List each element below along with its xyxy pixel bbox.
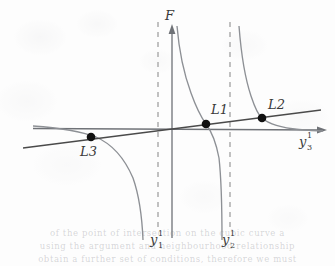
asymptote-label-y1-subscript: 1 bbox=[158, 241, 163, 250]
point-label-L2: L2 bbox=[267, 97, 285, 112]
plot-canvas: L1 L2 L3 F y 1 3 y 1 1 y 1 2 bbox=[0, 0, 335, 266]
axis-label-F: F bbox=[164, 8, 175, 23]
axis-label-y3-base: y bbox=[298, 134, 307, 149]
figure-container: of the point of intersection on the cubi… bbox=[0, 0, 335, 266]
axis-horizontal-arrowhead-icon bbox=[317, 127, 327, 134]
point-label-L3: L3 bbox=[79, 144, 97, 159]
axis-label-y3-subscript: 3 bbox=[307, 143, 312, 152]
axis-label-y3-superscript: 1 bbox=[307, 131, 312, 140]
asymptote-label-y1-base: y bbox=[149, 232, 158, 247]
point-marker-L2 bbox=[258, 114, 267, 123]
asymptote-label-y2-base: y bbox=[221, 232, 230, 247]
asymptote-label-y1: y 1 1 bbox=[149, 229, 163, 250]
asymptote-label-y1-superscript: 1 bbox=[158, 229, 163, 238]
asymptote-label-y2-subscript: 2 bbox=[230, 241, 235, 250]
axis-vertical-arrowhead-icon bbox=[169, 24, 176, 34]
asymptote-label-y2: y 1 2 bbox=[221, 229, 235, 250]
axis-label-y3: y 1 3 bbox=[298, 131, 312, 152]
curve-hyperbola-branch-middle bbox=[177, 26, 222, 240]
asymptote-label-y2-superscript: 1 bbox=[230, 229, 235, 238]
point-marker-L3 bbox=[87, 133, 96, 142]
point-label-L1: L1 bbox=[210, 102, 228, 117]
point-marker-L1 bbox=[202, 120, 211, 129]
